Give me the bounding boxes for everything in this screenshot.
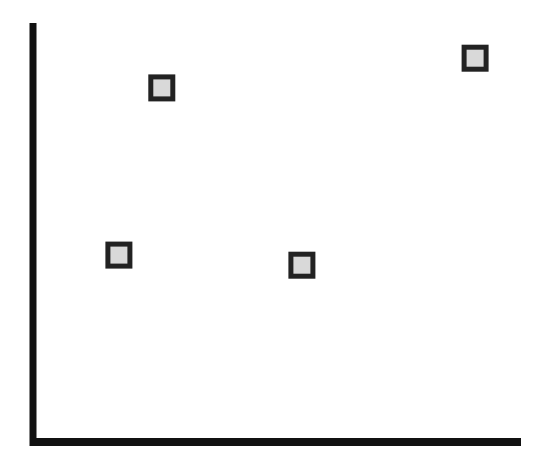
square-marker-3 xyxy=(291,254,313,276)
scatter-chart xyxy=(0,0,539,475)
square-marker-2 xyxy=(151,77,173,99)
square-marker-4 xyxy=(464,47,486,69)
axes xyxy=(30,23,521,446)
square-marker-1 xyxy=(108,244,130,266)
data-markers xyxy=(108,47,486,276)
